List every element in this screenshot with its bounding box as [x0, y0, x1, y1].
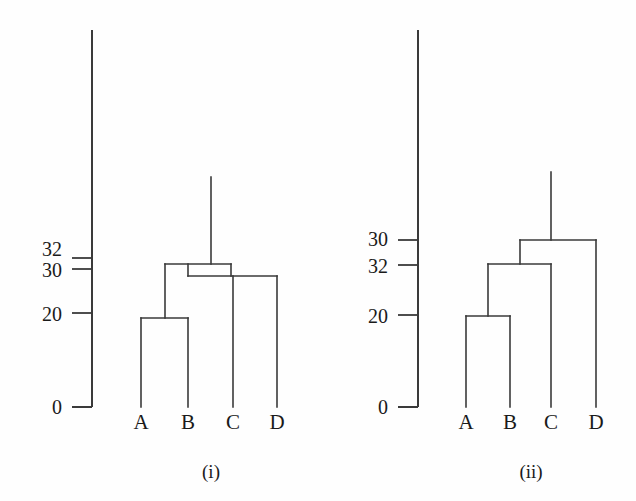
panel-i: 32 30 20 0 A B C D — [42, 30, 285, 483]
tick-label-32-ii: 32 — [368, 255, 388, 277]
leaf-label-b-i: B — [181, 410, 195, 434]
panel-caption-ii: (ii) — [519, 461, 542, 483]
leaf-label-c-ii: C — [544, 410, 558, 434]
tick-label-0-i: 0 — [52, 396, 62, 418]
leaf-label-c-i: C — [226, 410, 240, 434]
panel-caption-i: (i) — [202, 461, 220, 483]
leaf-label-d-ii: D — [588, 410, 603, 434]
dendrogram-figure: 32 30 20 0 A B C D — [0, 0, 636, 501]
panel-ii: 30 32 20 0 A B C D (ii) — [368, 30, 604, 483]
leaf-label-d-i: D — [269, 410, 284, 434]
dendrogram-canvas: 32 30 20 0 A B C D — [0, 0, 636, 501]
tick-label-30-i: 30 — [42, 259, 62, 281]
tick-label-0-ii: 0 — [378, 396, 388, 418]
tick-label-20-ii: 20 — [368, 305, 388, 327]
leaf-label-a-i: A — [133, 410, 149, 434]
leaf-label-a-ii: A — [458, 410, 474, 434]
tick-label-32-i: 32 — [42, 238, 62, 260]
tick-label-30-ii: 30 — [368, 228, 388, 250]
leaf-label-b-ii: B — [503, 410, 517, 434]
tick-label-20-i: 20 — [42, 303, 62, 325]
